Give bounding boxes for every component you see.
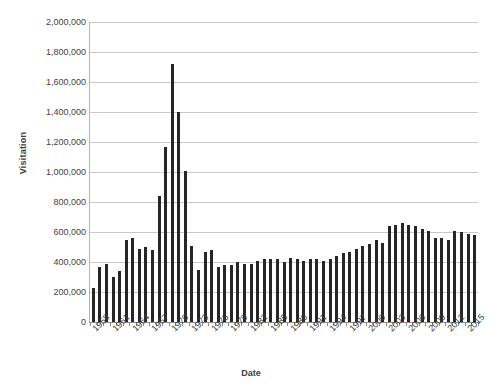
bar (276, 259, 279, 322)
bar (138, 249, 141, 323)
y-axis-tick-label: 1,800,000 (4, 48, 86, 57)
bar (131, 238, 134, 322)
bar (230, 265, 233, 322)
plot-area (90, 22, 478, 322)
bar (453, 231, 456, 323)
y-axis-tick-label: 800,000 (4, 198, 86, 207)
bar (236, 262, 239, 322)
y-axis-tick-labels: 2,000,0001,800,0001,600,0001,400,0001,20… (0, 0, 86, 387)
bar (381, 243, 384, 323)
bar (144, 247, 147, 322)
y-axis-tick-label: 1,400,000 (4, 108, 86, 117)
bar (217, 267, 220, 323)
bars-layer (90, 22, 478, 322)
bar (164, 147, 167, 323)
bar (361, 246, 364, 323)
bar (210, 250, 213, 322)
bar (414, 226, 417, 322)
bar (184, 171, 187, 323)
y-axis-tick-label: 1,000,000 (4, 168, 86, 177)
bar (401, 223, 404, 322)
bar (394, 225, 397, 323)
y-axis-tick-label: 200,000 (4, 288, 86, 297)
bar (151, 250, 154, 322)
bar (125, 240, 128, 323)
bar (460, 232, 463, 322)
bar (158, 196, 161, 322)
bar (177, 112, 180, 322)
bar (256, 261, 259, 323)
y-axis-tick-label: 1,600,000 (4, 78, 86, 87)
bar (309, 259, 312, 322)
y-axis-tick-label: 2,000,000 (4, 18, 86, 27)
bar (112, 277, 115, 322)
bar (92, 288, 95, 323)
bar (315, 259, 318, 322)
bar (250, 264, 253, 323)
x-axis-title: Date (0, 368, 502, 378)
y-axis-tick-label: 1,200,000 (4, 138, 86, 147)
bar (289, 258, 292, 323)
bar (98, 267, 101, 323)
bar (204, 252, 207, 323)
x-axis-tick-labels: 1958196119641967197019731976197919821985… (90, 327, 490, 367)
bar (355, 249, 358, 323)
visitation-bar-chart: Visitation 2,000,0001,800,0001,600,0001,… (0, 0, 502, 387)
bar (296, 259, 299, 322)
bar (329, 259, 332, 322)
bar (368, 244, 371, 322)
y-axis-tick-label: 400,000 (4, 258, 86, 267)
bar (375, 240, 378, 323)
bar (342, 253, 345, 322)
y-axis-tick-label: 0 (4, 318, 86, 327)
bar (171, 64, 174, 322)
bar (348, 252, 351, 323)
bar (407, 225, 410, 323)
bar (434, 238, 437, 322)
bar (421, 229, 424, 322)
bar (467, 234, 470, 323)
bar (473, 235, 476, 322)
bar (440, 238, 443, 322)
bar (335, 256, 338, 322)
bar (190, 246, 193, 323)
bar (427, 231, 430, 323)
bar (269, 259, 272, 322)
bar (388, 226, 391, 322)
bar (447, 240, 450, 323)
y-axis-tick-label: 600,000 (4, 228, 86, 237)
